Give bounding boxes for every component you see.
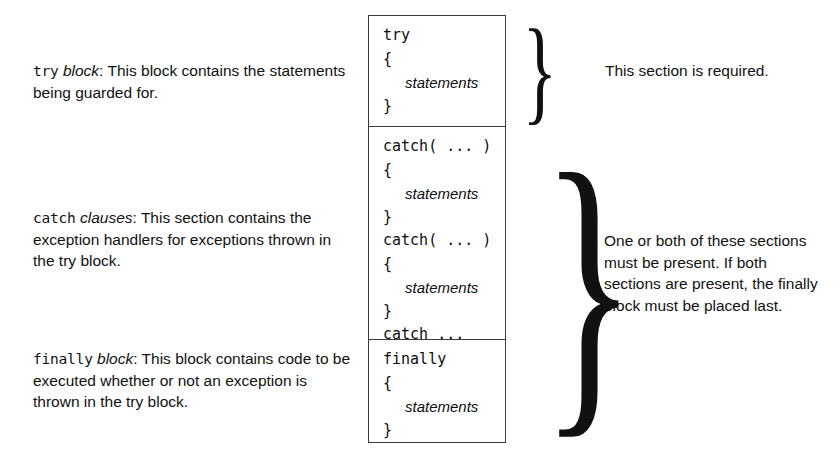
description-catch-clauses: catch clauses: This section contains the… (33, 207, 351, 271)
code-line-statements: statements (383, 71, 505, 95)
brace-one-or-both-icon: } (512, 128, 546, 443)
code-line: } (383, 95, 505, 119)
description-emphasis-catch: clauses (80, 209, 133, 226)
code-line: } (383, 419, 505, 443)
code-line: { (383, 372, 505, 396)
description-keyword-try: try (33, 63, 59, 79)
description-keyword-finally: finally (33, 351, 93, 367)
code-line-statements: statements (383, 182, 505, 206)
description-emphasis-try: block (63, 62, 99, 79)
description-keyword-catch: catch (33, 210, 76, 226)
description-finally-block: finally block: This block contains code … (33, 348, 351, 412)
code-line: } (383, 206, 505, 230)
code-section-try: try { statements } (369, 16, 505, 126)
code-line: { (383, 48, 505, 72)
code-line: catch( ... ) (383, 229, 505, 253)
code-line: { (383, 159, 505, 183)
annotation-one-or-both: One or both of these sections must be pr… (604, 230, 818, 316)
description-colon-catch: : (133, 209, 141, 226)
code-line-statements: statements (383, 395, 505, 419)
code-section-finally: finally { statements } (369, 339, 505, 440)
code-line-statements: statements (383, 276, 505, 300)
code-line: try (383, 24, 505, 48)
code-line: } (383, 300, 505, 324)
description-emphasis-finally: block (97, 350, 133, 367)
annotation-required: This section is required. (605, 60, 825, 82)
code-line: { (383, 253, 505, 277)
code-line: finally (383, 348, 505, 372)
code-structure-box: try { statements } catch( ... ) { statem… (368, 15, 506, 443)
code-section-catch: catch( ... ) { statements } catch( ... )… (369, 126, 505, 339)
description-try-block: try block: This block contains the state… (33, 60, 351, 103)
code-line: catch( ... ) (383, 135, 505, 159)
description-colon-finally: : (133, 350, 141, 367)
